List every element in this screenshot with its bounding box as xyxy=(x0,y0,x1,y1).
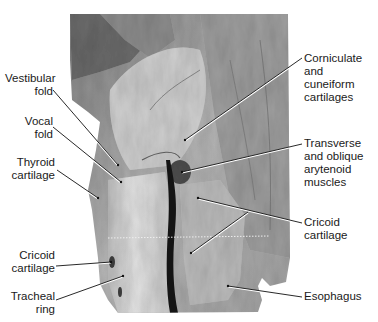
label-esophagus: Esophagus xyxy=(304,290,362,303)
label-thyroid-cartilage: Thyroid cartilage xyxy=(3,156,55,182)
label-cricoid-cartilage-right: Cricoid cartilage xyxy=(304,216,347,242)
label-arytenoid-muscles: Transverse and oblique arytenoid muscles xyxy=(304,137,363,189)
leader-dot-cricoid-cartilage-left xyxy=(110,261,112,263)
label-corniculate-cuneiform: Corniculate and cuneiform cartilages xyxy=(304,52,378,104)
tissue-region xyxy=(60,10,300,320)
leader-dot-vocal-fold xyxy=(120,181,122,183)
larynx-figure: Vestibular fold Vocal fold Thyroid carti… xyxy=(0,0,378,322)
leader-dot-corniculate-cuneiform xyxy=(184,139,186,141)
leader-dot-vestibular-fold xyxy=(117,164,119,166)
leader-dot-arytenoid-muscles xyxy=(181,171,183,173)
leader-dot-tracheal-ring xyxy=(122,275,124,277)
label-vestibular-fold: Vestibular fold xyxy=(5,72,53,98)
leader-dot-cricoid-cartilage-right-branch xyxy=(190,252,192,254)
label-cricoid-cartilage-left: Cricoid cartilage xyxy=(3,249,55,275)
leader-dot-thyroid-cartilage xyxy=(97,197,99,199)
leader-dot-esophagus xyxy=(227,285,229,287)
label-vocal-fold: Vocal fold xyxy=(5,115,53,141)
leader-dot-cricoid-cartilage-right xyxy=(197,197,199,199)
label-tracheal-ring: Tracheal ring xyxy=(3,290,55,316)
